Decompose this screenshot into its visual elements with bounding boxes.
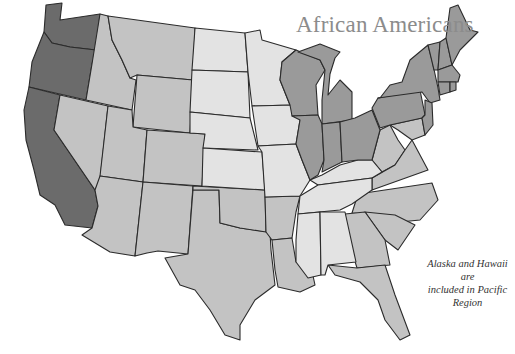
state-nd [192,28,248,72]
footnote-line-1: Alaska and Hawaii are [420,257,515,283]
map-title: African Americans [296,12,474,38]
state-fl [328,265,410,340]
state-ri [450,82,456,92]
footnote: Alaska and Hawaii are included in Pacifi… [420,257,515,309]
state-co [143,130,205,186]
state-wy [133,75,193,133]
state-sd [190,70,250,118]
state-ks [202,148,265,190]
state-in [322,122,342,172]
footnote-line-2: included in Pacific Region [420,283,515,309]
state-ct [438,82,450,95]
state-nj [422,100,433,135]
state-ar [265,196,300,240]
state-nm [135,182,193,256]
